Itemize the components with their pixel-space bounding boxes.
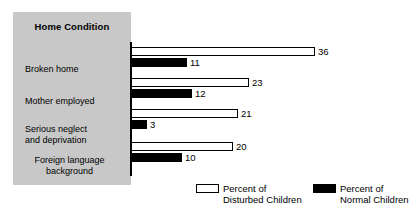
legend-label-line2: Normal Children xyxy=(340,194,409,205)
legend-label-normal-children: Percent of Normal Children xyxy=(340,183,409,205)
bar-broken-home-disturbed xyxy=(131,47,315,56)
panel-title: Home Condition xyxy=(13,21,131,32)
bar-value-mother-employed-disturbed: 23 xyxy=(252,78,263,88)
bar-broken-home-normal xyxy=(131,58,187,67)
bar-value-foreign-language-disturbed: 20 xyxy=(236,142,247,152)
bar-value-serious-neglect-disturbed: 21 xyxy=(241,109,252,119)
bar-chart: Home Condition Broken home Mother employ… xyxy=(0,0,416,215)
category-label-panel: Home Condition Broken home Mother employ… xyxy=(13,12,131,185)
legend-item-disturbed-children: Percent of Disturbed Children xyxy=(196,183,302,205)
bar-foreign-language-normal xyxy=(131,153,182,162)
bar-value-serious-neglect-normal: 3 xyxy=(150,120,155,130)
legend-label-line2: Disturbed Children xyxy=(223,194,302,205)
legend-label-line1: Percent of xyxy=(340,183,383,194)
category-label-line1: Mother employed xyxy=(25,96,95,106)
category-label-line1: Serious neglect xyxy=(25,124,87,134)
category-label-mother-employed: Mother employed xyxy=(13,96,126,107)
bar-value-broken-home-normal: 11 xyxy=(190,58,200,68)
bar-mother-employed-normal xyxy=(131,89,192,98)
bar-serious-neglect-disturbed xyxy=(131,109,238,118)
legend-label-disturbed-children: Percent of Disturbed Children xyxy=(223,183,302,205)
bar-mother-employed-disturbed xyxy=(131,78,249,87)
category-label-line2: and deprivation xyxy=(25,135,126,146)
bar-value-foreign-language-normal: 10 xyxy=(185,153,196,163)
category-label-serious-neglect: Serious neglect and deprivation xyxy=(13,124,126,145)
bar-serious-neglect-normal xyxy=(131,120,147,129)
category-label-foreign-language: Foreign language background xyxy=(13,155,126,176)
category-label-line1: Broken home xyxy=(25,64,79,74)
bar-value-mother-employed-normal: 12 xyxy=(195,89,206,99)
legend-swatch-white-icon xyxy=(196,184,219,193)
category-label-line1: Foreign language xyxy=(34,155,104,165)
category-label-line2: background xyxy=(13,166,126,177)
plot-area: 36 11 23 12 21 3 20 10 xyxy=(130,42,416,178)
bar-value-broken-home-disturbed: 36 xyxy=(318,47,329,57)
legend-item-normal-children: Percent of Normal Children xyxy=(313,183,409,205)
bar-foreign-language-disturbed xyxy=(131,142,233,151)
legend-label-line1: Percent of xyxy=(223,183,266,194)
category-label-broken-home: Broken home xyxy=(13,64,126,75)
legend: Percent of Disturbed Children Percent of… xyxy=(196,183,416,213)
legend-swatch-black-icon xyxy=(313,184,336,193)
